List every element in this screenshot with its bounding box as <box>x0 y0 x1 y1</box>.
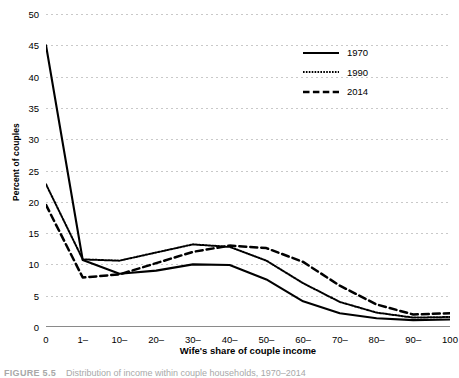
y-axis-tick-label: 15 <box>28 228 39 239</box>
x-axis-tick-label: 10– <box>112 334 128 345</box>
series-line-1990 <box>46 184 450 317</box>
y-axis-title: Percent of couples <box>11 102 21 222</box>
y-axis-tick-label: 0 <box>34 322 39 333</box>
plot-area: 0510152025303540455001–10–20–30–40–50–60… <box>46 14 450 327</box>
x-axis-tick-label: 70– <box>332 334 348 345</box>
y-axis-tick-label: 5 <box>34 290 39 301</box>
x-axis-tick-label: 20– <box>148 334 164 345</box>
caption-text: Distribution of income within couple hou… <box>66 368 306 378</box>
legend-label-2014: 2014 <box>347 86 368 97</box>
y-axis-tick-label: 20 <box>28 196 39 207</box>
x-axis-tick-label: 90– <box>405 334 421 345</box>
legend-swatch-solid <box>303 48 339 58</box>
legend-item-1990: 1990 <box>303 67 368 78</box>
y-axis-tick-label: 25 <box>28 165 39 176</box>
x-axis-tick-label: 50– <box>258 334 274 345</box>
series-layer <box>46 14 450 327</box>
figure-caption: FIGURE 5.5 Distribution of income within… <box>4 368 459 378</box>
x-axis-tick-label: 30– <box>185 334 201 345</box>
y-axis-tick-label: 10 <box>28 259 39 270</box>
x-axis-title: Wife's share of couple income <box>46 345 450 356</box>
legend-item-1970: 1970 <box>303 47 368 58</box>
x-axis-tick-label: 0 <box>43 334 48 345</box>
x-axis-tick-label: 100 <box>442 334 458 345</box>
y-axis-tick-label: 45 <box>28 40 39 51</box>
y-axis-tick-label: 50 <box>28 9 39 20</box>
legend-swatch-dotted <box>303 67 339 77</box>
caption-figure-number: FIGURE 5.5 <box>4 368 56 378</box>
series-line-1970 <box>46 45 450 320</box>
x-axis-tick-label: 1– <box>77 334 88 345</box>
legend-item-2014: 2014 <box>303 86 368 97</box>
y-axis-tick-label: 35 <box>28 102 39 113</box>
x-axis-tick-label: 60– <box>295 334 311 345</box>
x-axis-tick-label: 40– <box>222 334 238 345</box>
y-axis-tick-label: 30 <box>28 134 39 145</box>
legend: 1970 1990 2014 <box>303 47 368 97</box>
legend-label-1990: 1990 <box>347 67 368 78</box>
figure-container: Percent of couples 051015202530354045500… <box>0 0 459 378</box>
legend-label-1970: 1970 <box>347 47 368 58</box>
legend-swatch-dashed <box>303 87 339 97</box>
y-axis-tick-label: 40 <box>28 71 39 82</box>
x-axis-tick-label: 80– <box>369 334 385 345</box>
